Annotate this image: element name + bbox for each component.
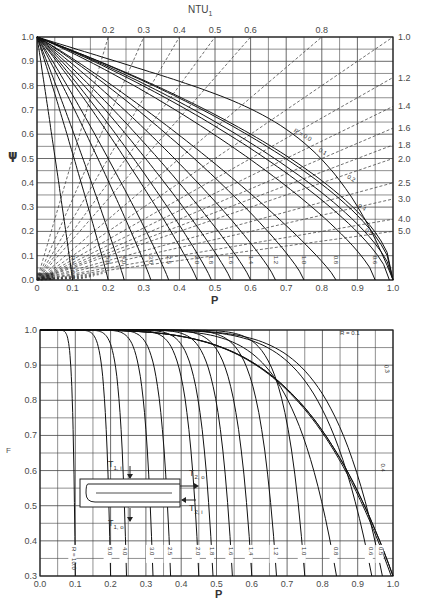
- r-curve-label: R = 10.0: [71, 547, 77, 571]
- x-tick-label: 0.7: [281, 579, 294, 589]
- x-tick-label: 0.3: [140, 579, 153, 589]
- figure: 00.10.20.30.40.50.60.70.80.91.00.00.10.2…: [0, 0, 422, 606]
- y-tick-label: 0.5: [24, 501, 37, 511]
- arrow-head-left-icon: [181, 497, 186, 503]
- y-tick-label: 0.6: [24, 466, 37, 476]
- t2-outlet-label: T2, o: [189, 468, 205, 480]
- y-tick-label: 0.7: [24, 430, 37, 440]
- y-tick-label: 0.8: [24, 395, 37, 405]
- r-curve-label: 2.0: [195, 547, 201, 556]
- y-tick-label: 1.0: [24, 325, 37, 335]
- y-tick-label: 0.4: [24, 536, 37, 546]
- ntu-subscript: 1: [209, 10, 213, 17]
- r-curve-label: 0.4: [380, 464, 386, 473]
- r-curve-label: 5.0: [107, 547, 113, 556]
- top-x-axis-title: P: [211, 294, 218, 306]
- r-curve-label: 4.0: [122, 547, 128, 556]
- t2-inlet-label: T2, i: [189, 503, 203, 515]
- arrow-head-down-icon: [127, 517, 133, 522]
- r-curve-label: 3.0: [149, 547, 155, 556]
- r-curve-label: 1.6: [228, 547, 234, 556]
- f-axis-title: F: [6, 446, 11, 455]
- x-tick-label: 0.2: [104, 579, 117, 589]
- x-tick-label: 0.6: [246, 579, 259, 589]
- y-tick-label: 0.9: [24, 360, 37, 370]
- bottom-x-axis-title: P: [215, 588, 222, 600]
- x-tick-label: 1.0: [387, 579, 400, 589]
- r-curve-label: 0.3: [383, 364, 390, 374]
- y-tick-label: 0.3: [24, 571, 37, 581]
- t1-outlet-label: T1, o: [108, 518, 124, 530]
- r-curve-label: 2.5: [167, 547, 173, 556]
- r-curve-label: 1.2: [273, 547, 279, 556]
- r-curve-label: R = 0.1: [340, 330, 360, 336]
- top-axis-title: NTU1: [188, 4, 212, 17]
- x-tick-label: 0.4: [175, 579, 188, 589]
- r-curve-label: 1.0: [301, 547, 307, 556]
- ntu-label: NTU: [188, 4, 209, 15]
- r-curve-label: 0.5: [378, 547, 384, 556]
- r-curve-label: 0.8: [333, 547, 339, 556]
- r-curve-label: 0.6: [368, 547, 374, 556]
- x-tick-label: 0.1: [69, 579, 82, 589]
- psi-axis-title: ψ: [8, 148, 18, 162]
- t1-inlet-label: T1, i: [108, 459, 122, 471]
- arrow-head-down-icon: [127, 474, 133, 479]
- r-curve-label: 1.8: [209, 547, 215, 556]
- x-tick-label: 0.9: [351, 579, 364, 589]
- r-curve-label: 1.4: [248, 547, 254, 556]
- x-tick-label: 0.8: [316, 579, 329, 589]
